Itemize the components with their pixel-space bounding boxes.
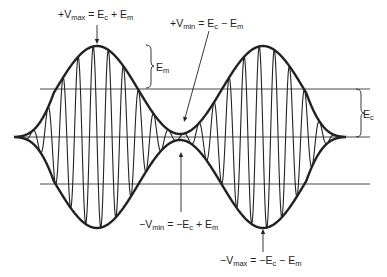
label-vmax-negative: −Vmax = −Ec − Em xyxy=(220,254,301,266)
arrowhead-vmax-positive xyxy=(95,39,99,44)
label-vmax-positive: +Vmax = Ec + Em xyxy=(58,8,133,20)
upper-envelope xyxy=(14,46,346,137)
label-ec: Ec xyxy=(363,108,374,120)
arrowhead-vmax-negative xyxy=(261,229,265,234)
am-waveform-diagram xyxy=(0,0,387,277)
arrowhead-vmin-positive xyxy=(183,117,187,122)
lower-envelope xyxy=(14,137,346,228)
brace-em xyxy=(146,45,154,88)
label-vmin-positive: +Vmin = Ec − Em xyxy=(170,17,243,29)
label-vmin-negative: −Vmin = −Ec + Em xyxy=(139,218,218,230)
reference-lines xyxy=(14,89,370,184)
arrowhead-vmin-negative xyxy=(179,152,183,157)
arrow-vmin-positive xyxy=(185,31,209,118)
label-em: Em xyxy=(156,61,169,73)
